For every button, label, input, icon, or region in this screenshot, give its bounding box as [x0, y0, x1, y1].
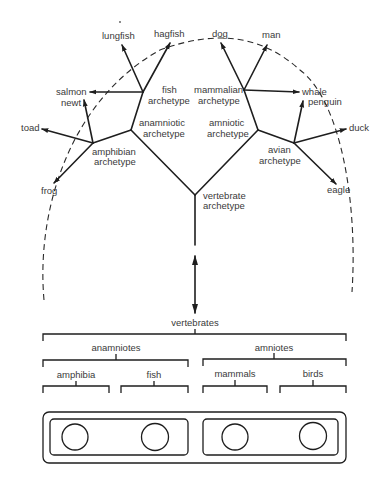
- set-fish: [142, 424, 169, 451]
- stray-dot: [119, 21, 121, 23]
- edge-anamniotic-amphibian: [93, 130, 131, 143]
- label-avian-archetype-1: avian: [268, 144, 291, 155]
- label-anamniotic-archetype-1: anamniotic: [139, 117, 185, 128]
- arrow-to-lungfish: [122, 45, 143, 92]
- arrow-to-duck: [294, 129, 346, 143]
- label-penguin: penguin: [308, 96, 342, 107]
- label-toad: toad: [21, 122, 40, 133]
- nested-sets: [43, 412, 346, 463]
- edge-amniotic-mammalian: [244, 90, 258, 130]
- label-dog: dog: [212, 28, 228, 39]
- label-fish: fish: [147, 369, 162, 380]
- label-vertebrates: vertebrates: [171, 317, 219, 328]
- bracket-amniotes: [203, 353, 346, 366]
- leaf-labels: lungfish hagfish salmon newt toad frog d…: [21, 28, 369, 196]
- label-anamniotes: anamniotes: [91, 342, 140, 353]
- arrow-to-whale: [244, 90, 299, 92]
- label-amphibia: amphibia: [57, 369, 96, 380]
- arrow-to-man: [244, 45, 267, 90]
- arrow-to-newt: [84, 100, 93, 143]
- label-birds: birds: [303, 368, 324, 379]
- arrow-to-dog: [221, 43, 244, 90]
- arrow-to-penguin: [294, 101, 303, 143]
- bracket-mammals: [203, 380, 267, 393]
- phylogeny-tree: [42, 43, 346, 245]
- set-birds: [300, 423, 327, 450]
- arrow-to-frog: [54, 143, 93, 183]
- classification-hierarchy: vertebrates anamniotes amniotes amphibia…: [43, 317, 346, 393]
- bracket-vertebrates: [43, 329, 346, 341]
- arrow-to-toad: [42, 129, 93, 143]
- label-hagfish: hagfish: [154, 28, 185, 39]
- label-lungfish: lungfish: [102, 30, 135, 41]
- archetype-labels: fish archetype mammalian archetype anamn…: [92, 84, 301, 211]
- label-anamniotic-archetype-2: archetype: [143, 128, 185, 139]
- label-amniotic-archetype-2: archetype: [207, 128, 249, 139]
- set-amniotes: [203, 419, 338, 455]
- label-fish-archetype-1: fish: [162, 84, 177, 95]
- label-mammalian-archetype-2: archetype: [198, 95, 240, 106]
- edge-vertebrate-amniotic: [195, 130, 258, 195]
- label-newt: newt: [61, 97, 81, 108]
- edge-vertebrate-anamniotic: [131, 130, 195, 195]
- bracket-fish: [121, 381, 188, 393]
- label-frog: frog: [41, 185, 57, 196]
- diagram-canvas: lungfish hagfish salmon newt toad frog d…: [0, 0, 389, 486]
- bracket-amphibia: [43, 381, 109, 393]
- label-mammalian-archetype-1: mammalian: [194, 84, 243, 95]
- label-amniotes: amniotes: [255, 342, 294, 353]
- label-eagle: eagle: [327, 184, 350, 195]
- edge-amniotic-avian: [258, 130, 294, 143]
- label-amniotic-archetype-1: amniotic: [209, 117, 245, 128]
- dashed-boundary-arc: [43, 38, 353, 300]
- label-duck: duck: [349, 122, 369, 133]
- label-man: man: [262, 29, 280, 40]
- label-fish-archetype-2: archetype: [148, 95, 190, 106]
- bracket-anamniotes: [43, 354, 188, 367]
- label-avian-archetype-2: archetype: [259, 155, 301, 166]
- label-vertebrate-archetype-2: archetype: [203, 200, 245, 211]
- bracket-birds: [280, 380, 346, 393]
- label-amphibian-archetype-2: archetype: [94, 156, 136, 167]
- label-salmon: salmon: [56, 86, 87, 97]
- set-mammals: [222, 424, 248, 450]
- set-amphibia: [62, 424, 88, 450]
- label-mammals: mammals: [214, 368, 255, 379]
